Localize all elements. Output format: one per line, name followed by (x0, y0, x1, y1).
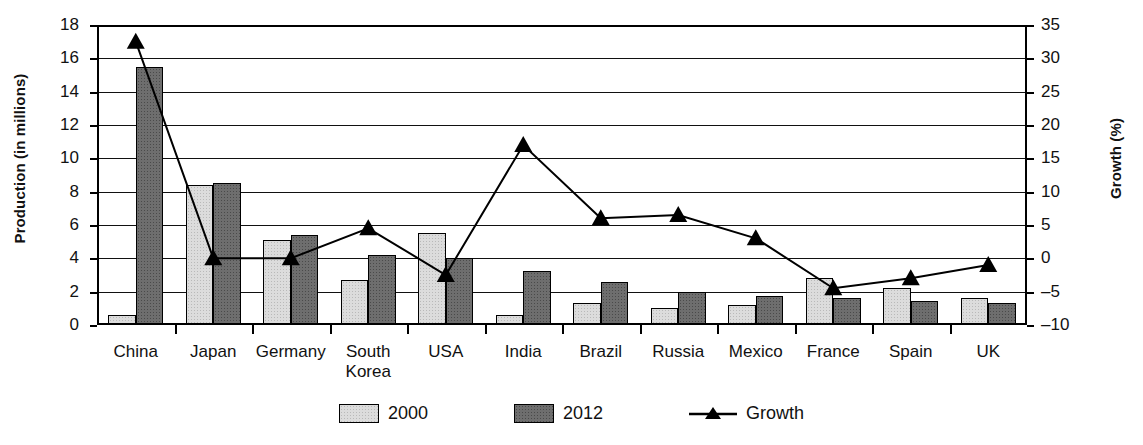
y-axis-right-tick (1027, 192, 1034, 194)
legend-swatch-2000-icon (339, 404, 379, 423)
y-axis-left-tick (90, 325, 97, 327)
legend-item-2000: 2000 (339, 403, 428, 424)
y-axis-left-tick (90, 258, 97, 260)
legend-label-2012: 2012 (563, 403, 603, 424)
legend-line-marker-icon (689, 404, 737, 423)
y-axis-left-tick (90, 292, 97, 294)
x-axis-tick (485, 325, 487, 334)
x-axis-label-line: UK (950, 342, 1028, 362)
y-axis-left-tick-label: 6 (19, 216, 79, 233)
y-axis-left-tick-label: 12 (19, 116, 79, 133)
y-axis-right-tick (1027, 58, 1034, 60)
y-axis-left-tick-label: 10 (19, 149, 79, 166)
x-axis-tick (407, 325, 409, 334)
legend-label-2000: 2000 (388, 403, 428, 424)
x-axis-label-line: USA (407, 342, 485, 362)
y-axis-left-tick (90, 92, 97, 94)
x-axis-label: France (795, 342, 873, 362)
x-axis-label: Spain (872, 342, 950, 362)
y-axis-left-tick-label: 16 (19, 49, 79, 66)
legend-label-growth: Growth (746, 403, 804, 424)
x-axis-label: India (485, 342, 563, 362)
x-axis-tick (872, 325, 874, 334)
y-axis-right-tick (1027, 125, 1034, 127)
y-axis-right-tick (1027, 25, 1034, 27)
legend-swatch-2012-icon (514, 404, 554, 423)
x-axis-label-line: South (330, 342, 408, 362)
y-axis-right-tick-label: 30 (1041, 49, 1101, 66)
plot-border (97, 25, 1027, 325)
x-axis-tick (950, 325, 952, 334)
y-axis-left-tick-label: 2 (19, 283, 79, 300)
y-axis-left-tick-label: 18 (19, 16, 79, 33)
y-axis-right-tick-label: 5 (1041, 216, 1101, 233)
x-axis-label: UK (950, 342, 1028, 362)
y-axis-right-tick-label: 25 (1041, 83, 1101, 100)
y-axis-right-tick (1027, 225, 1034, 227)
y-axis-right-tick (1027, 325, 1034, 327)
x-axis-tick (252, 325, 254, 334)
x-axis-label: USA (407, 342, 485, 362)
y-axis-right-tick (1027, 258, 1034, 260)
plot-area (97, 25, 1027, 325)
chart-figure: Production (in millions) Growth (%) 0246… (0, 0, 1143, 445)
y-axis-left-tick-label: 14 (19, 83, 79, 100)
y-axis-left-tick (90, 225, 97, 227)
x-axis-tick (717, 325, 719, 334)
x-axis-label: Brazil (562, 342, 640, 362)
x-axis-label-line: Russia (640, 342, 718, 362)
x-axis-label: Germany (252, 342, 330, 362)
y-axis-right-tick-label: 10 (1041, 183, 1101, 200)
y-axis-right-tick-label: 15 (1041, 149, 1101, 166)
y-axis-left-tick (90, 158, 97, 160)
y-axis-left-tick-label: 0 (19, 316, 79, 333)
x-axis-label-line: Mexico (717, 342, 795, 362)
y-axis-left-tick (90, 125, 97, 127)
y-axis-left-tick-label: 8 (19, 183, 79, 200)
y-axis-right-tick (1027, 158, 1034, 160)
y-axis-right-tick-label: –5 (1041, 283, 1101, 300)
y-axis-left-tick (90, 58, 97, 60)
legend-item-2012: 2012 (514, 403, 603, 424)
x-axis-label: SouthKorea (330, 342, 408, 382)
y-axis-right-tick (1027, 292, 1034, 294)
x-axis-label-line: Spain (872, 342, 950, 362)
x-axis-label: China (97, 342, 175, 362)
x-axis-label-line: Germany (252, 342, 330, 362)
y-axis-left-tick (90, 192, 97, 194)
y-axis-right-tick-label: 0 (1041, 249, 1101, 266)
x-axis-label-line: India (485, 342, 563, 362)
y-axis-left-tick-label: 4 (19, 249, 79, 266)
x-axis-label-line: Korea (330, 362, 408, 382)
x-axis-label-line: Brazil (562, 342, 640, 362)
x-axis-label: Mexico (717, 342, 795, 362)
x-axis-label: Russia (640, 342, 718, 362)
x-axis-label-line: France (795, 342, 873, 362)
x-axis-label-line: China (97, 342, 175, 362)
y-axis-right-title: Growth (%) (1107, 84, 1124, 234)
y-axis-right-tick-label: 35 (1041, 16, 1101, 33)
x-axis-tick (562, 325, 564, 334)
x-axis-label-line: Japan (175, 342, 253, 362)
x-axis-tick (640, 325, 642, 334)
x-axis-label: Japan (175, 342, 253, 362)
x-axis-tick (175, 325, 177, 334)
y-axis-right-tick-label: 20 (1041, 116, 1101, 133)
x-axis-tick (330, 325, 332, 334)
y-axis-right-tick-label: –10 (1041, 316, 1101, 333)
y-axis-right-tick (1027, 92, 1034, 94)
x-axis-tick (795, 325, 797, 334)
y-axis-left-tick (90, 25, 97, 27)
legend-item-growth: Growth (689, 403, 804, 424)
chart-legend: 2000 2012 Growth (0, 398, 1143, 428)
